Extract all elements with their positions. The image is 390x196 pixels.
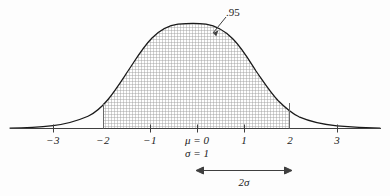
mean-label: μ = 0 (185, 134, 209, 146)
sd-label: σ = 1 (185, 147, 209, 159)
two-sigma-arrow (196, 167, 292, 174)
tick-label-two: 2 (287, 134, 293, 146)
tick-label-minus3: −3 (46, 134, 59, 146)
normal-distribution-figure: −3 −2 −1 1 2 3 μ = 0 σ = 1 .95 2σ (0, 0, 390, 196)
area-proportion-label: .95 (226, 6, 240, 18)
distribution-plot (0, 0, 390, 196)
tick-label-minus1: −1 (143, 134, 156, 146)
two-sigma-label: 2σ (239, 176, 250, 188)
tick-label-minus2: −2 (96, 134, 109, 146)
tick-label-three: 3 (334, 134, 340, 146)
shaded-area-95 (103, 18, 290, 129)
tick-label-one: 1 (241, 134, 247, 146)
